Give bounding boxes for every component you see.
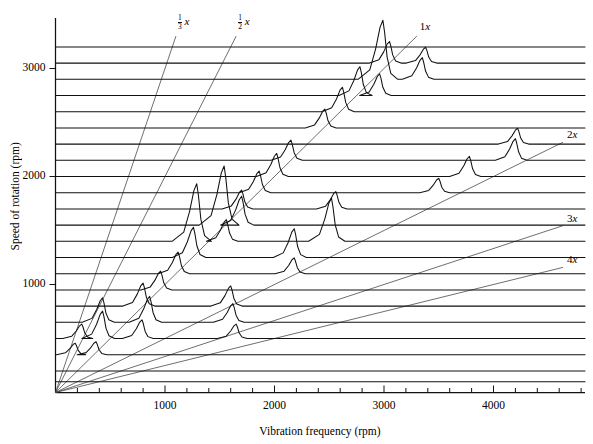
trace-350 <box>56 342 586 355</box>
trace-500 <box>56 311 586 338</box>
order-line-3x <box>56 226 564 393</box>
trace-2600 <box>56 87 586 111</box>
order-line-13x <box>56 36 176 392</box>
trace-1550 <box>56 166 586 225</box>
trace-2750 <box>56 67 586 96</box>
waterfall-plot-figure: 1000200030004000100020003000Vibration fr… <box>0 0 593 444</box>
plot-canvas <box>0 0 593 444</box>
trace-1850 <box>56 171 586 193</box>
order-line-1x <box>56 36 417 392</box>
order-lines <box>56 36 564 392</box>
trace-1100 <box>56 252 586 274</box>
trace-650 <box>56 296 586 322</box>
trace-800 <box>56 283 586 306</box>
order-line-12x <box>56 36 237 392</box>
order-line-4x <box>56 267 564 392</box>
trace-3050 <box>56 42 586 64</box>
trace-2300 <box>56 128 586 144</box>
trace-2900 <box>56 20 586 79</box>
